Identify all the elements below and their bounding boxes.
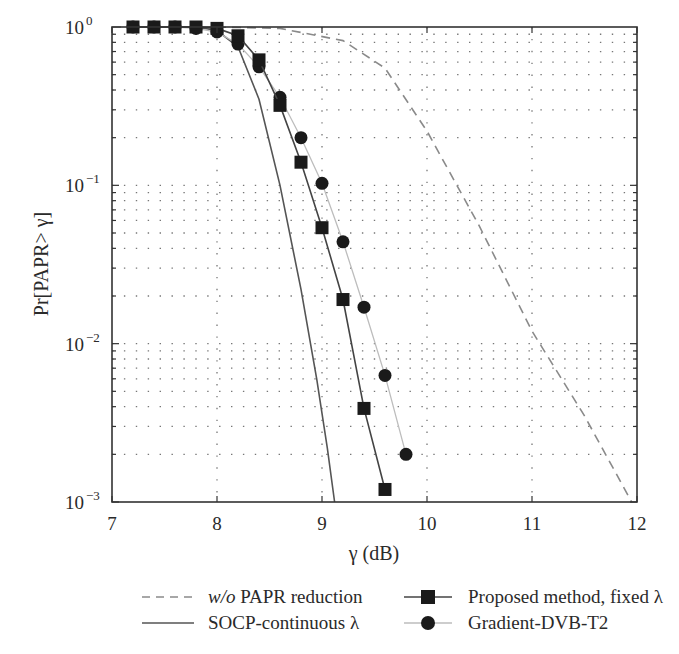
y-axis-tick-labels: 10010−110−210−3 — [65, 13, 100, 513]
circle-marker — [358, 301, 371, 314]
y-tick-label: 10 — [65, 492, 84, 513]
circle-marker-icon — [400, 615, 456, 631]
data-series — [112, 21, 632, 503]
x-tick-label: 10 — [418, 513, 437, 534]
series-socp-continuous- — [133, 27, 335, 502]
series-proposed-method-fixed- — [127, 21, 392, 496]
y-tick-label: 10 — [65, 334, 84, 355]
circle-marker — [379, 369, 392, 382]
legend-item-gradient: Gradient-DVB-T2 — [400, 611, 608, 635]
x-tick-label: 12 — [628, 513, 647, 534]
circle-marker — [400, 448, 413, 461]
x-tick-label: 8 — [212, 513, 222, 534]
legend-item-proposed: Proposed method, fixed λ — [400, 585, 663, 609]
circle-marker — [316, 177, 329, 190]
square-marker-icon — [400, 589, 456, 605]
square-marker — [316, 221, 329, 234]
svg-text:−3: −3 — [86, 488, 100, 503]
x-axis-tick-labels: 789101112 — [107, 513, 646, 534]
axis-ticks — [112, 27, 637, 502]
solid-line-icon — [140, 616, 196, 630]
square-marker — [379, 483, 392, 496]
x-tick-label: 7 — [107, 513, 117, 534]
series-gradient-dvb-t2 — [127, 21, 413, 461]
square-marker — [295, 156, 308, 169]
dashed-line-icon — [140, 590, 196, 604]
y-tick-label: 10 — [65, 175, 84, 196]
grid-lines — [112, 27, 637, 502]
square-marker — [232, 29, 245, 42]
series-w-o-papr-reduction — [112, 27, 632, 502]
plot-frame — [112, 27, 637, 502]
svg-text:−1: −1 — [86, 171, 100, 186]
x-axis-label: γ (dB) — [348, 542, 400, 565]
square-marker — [337, 293, 350, 306]
x-tick-label: 11 — [523, 513, 541, 534]
y-tick-label: 10 — [65, 17, 84, 38]
square-marker — [358, 402, 371, 415]
circle-marker — [337, 235, 350, 248]
x-tick-label: 9 — [317, 513, 327, 534]
square-marker — [253, 53, 266, 66]
legend-item-socp: SOCP-continuous λ — [140, 611, 359, 635]
svg-text:−2: −2 — [86, 330, 100, 345]
circle-marker — [295, 131, 308, 144]
legend-item-wo-papr: w/o PAPR reduction — [140, 585, 363, 609]
square-marker — [274, 99, 287, 112]
svg-text:0: 0 — [86, 13, 93, 28]
chart-canvas: 789101112 10010−110−210−3 γ (dB) Pr[PAPR… — [0, 0, 679, 580]
y-axis-label: Pr[PAPR> γ] — [30, 212, 53, 316]
